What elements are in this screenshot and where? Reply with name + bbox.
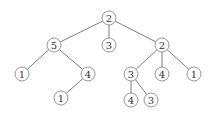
tree-edge xyxy=(115,21,156,42)
tree-node: 5 xyxy=(47,38,61,52)
tree-node: 4 xyxy=(124,93,138,107)
node-label: 4 xyxy=(159,69,165,80)
edges-layer xyxy=(27,21,189,94)
node-label: 4 xyxy=(128,95,134,106)
tree-node: 3 xyxy=(144,93,158,107)
tree-node: 2 xyxy=(102,11,116,25)
node-label: 1 xyxy=(58,93,64,104)
tree-node: 4 xyxy=(81,67,95,81)
tree-node: 1 xyxy=(54,91,68,105)
tree-edge xyxy=(60,21,102,42)
node-label: 5 xyxy=(51,40,57,51)
tree-diagram: 253214134143 xyxy=(0,0,214,116)
tree-edge xyxy=(59,50,82,70)
tree-node: 3 xyxy=(102,38,116,52)
node-label: 3 xyxy=(106,40,112,51)
tree-node: 1 xyxy=(15,67,29,81)
nodes-layer: 253214134143 xyxy=(15,11,201,107)
tree-edge xyxy=(27,50,49,70)
node-label: 2 xyxy=(106,13,112,24)
tree-edge xyxy=(167,50,189,70)
node-label: 3 xyxy=(148,95,154,106)
node-label: 1 xyxy=(191,69,197,80)
tree-node: 1 xyxy=(187,67,201,81)
tree-node: 4 xyxy=(155,67,169,81)
tree-edge xyxy=(135,80,146,95)
tree-edge xyxy=(66,79,83,94)
tree-edge xyxy=(136,50,157,69)
tree-node: 2 xyxy=(155,38,169,52)
node-label: 1 xyxy=(19,69,25,80)
node-label: 4 xyxy=(85,69,91,80)
tree-node: 3 xyxy=(124,67,138,81)
node-label: 3 xyxy=(128,69,134,80)
node-label: 2 xyxy=(159,40,165,51)
